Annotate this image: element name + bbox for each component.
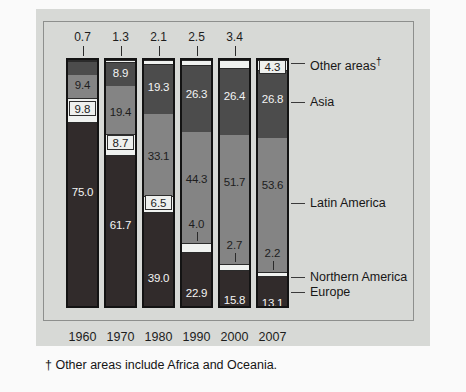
legend-leader-asia: [291, 102, 305, 103]
bar-1980[interactable]: 19.333.139.0: [142, 58, 175, 308]
value-europe-1960: 75.0: [68, 187, 97, 199]
legend-label-latin: Latin America: [310, 197, 386, 210]
value-northern-1980: 6.5: [145, 195, 172, 210]
value-asia-1970: 8.9: [106, 68, 135, 80]
bar-2007[interactable]: 26.853.613.1: [256, 58, 289, 308]
leader-other-1970: [121, 46, 122, 56]
value-europe-2007: 13.1: [258, 298, 287, 308]
value-asia-1990: 26.3: [182, 89, 211, 101]
leader-northern-2007: [273, 261, 274, 270]
value-asia-1980: 19.3: [144, 82, 173, 94]
bar-1970[interactable]: 8.919.461.7: [104, 58, 137, 308]
value-latin-1960: 9.4: [68, 80, 97, 92]
figure: 9.475.08.919.461.719.333.139.026.344.322…: [0, 0, 466, 392]
value-europe-1980: 39.0: [144, 273, 173, 285]
value-other-2007: 4.3: [259, 60, 286, 74]
value-northern-1960: 9.8: [69, 101, 96, 116]
leader-other-1980: [159, 46, 160, 56]
value-asia-2000: 26.4: [220, 91, 249, 103]
value-latin-1980: 33.1: [144, 151, 173, 163]
legend-label-asia: Asia: [310, 96, 334, 109]
value-europe-2000: 15.8: [220, 295, 249, 307]
value-asia-2007: 26.8: [258, 94, 287, 106]
leader-other-1960: [83, 46, 84, 56]
bar-1960[interactable]: 9.475.0: [66, 58, 99, 308]
value-latin-2000: 51.7: [220, 177, 249, 189]
segment-europe-1980: [144, 213, 173, 309]
legend-label-northern: Northern America: [310, 271, 407, 284]
segment-europe-1960: [68, 123, 97, 309]
segment-europe-1970: [106, 156, 135, 308]
segment-other-2000: [220, 60, 249, 69]
bar-1990[interactable]: 26.344.322.9: [180, 58, 213, 308]
legend-label-europe: Europe: [310, 286, 350, 299]
bar-2000[interactable]: 26.451.715.8: [218, 58, 251, 308]
legend-leader-other: [291, 63, 305, 64]
segment-asia-1960: [68, 62, 97, 75]
leader-other-2000: [235, 46, 236, 56]
footnote: † Other areas include Africa and Oceania…: [45, 358, 277, 372]
value-latin-2007: 53.6: [258, 180, 287, 192]
leader-northern-1990: [197, 232, 198, 241]
legend-leader-latin: [291, 203, 305, 204]
legend-label-other: Other areas†: [310, 57, 382, 73]
legend-leader-europe: [291, 292, 305, 293]
value-northern-2007: 2.2: [251, 248, 295, 260]
value-latin-1990: 44.3: [182, 174, 211, 186]
value-northern-1970: 8.7: [107, 135, 134, 150]
legend-leader-northern: [291, 277, 305, 278]
value-europe-1970: 61.7: [106, 220, 135, 232]
dagger-icon: †: [376, 56, 382, 67]
segment-northern-2000: [220, 264, 249, 271]
value-europe-1990: 22.9: [182, 288, 211, 300]
value-northern-1990: 4.0: [175, 219, 219, 231]
leader-other-1990: [197, 46, 198, 56]
x-tick-2007: 2007: [249, 331, 297, 344]
segment-northern-1990: [182, 243, 211, 253]
value-other-2000: 3.4: [213, 31, 257, 43]
value-latin-1970: 19.4: [106, 107, 135, 119]
leader-northern-2000: [235, 253, 236, 262]
